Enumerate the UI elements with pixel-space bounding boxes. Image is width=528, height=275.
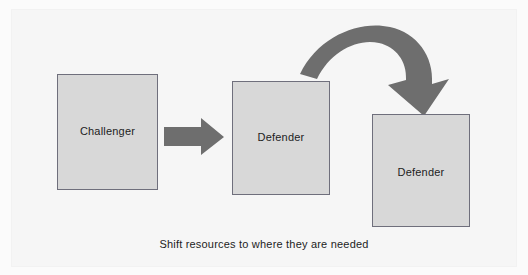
node-box-defender-middle[interactable]: Defender	[232, 81, 330, 195]
figure-caption: Shift resources to where they are needed	[0, 238, 528, 250]
node-label-defender-middle: Defender	[233, 131, 329, 143]
node-label-challenger: Challenger	[58, 125, 157, 137]
node-label-defender-right: Defender	[373, 166, 469, 178]
node-box-defender-right[interactable]: Defender	[372, 114, 470, 227]
diagram-figure: Challenger Defender Defender Shift resou…	[0, 0, 528, 275]
node-box-challenger[interactable]: Challenger	[57, 74, 158, 190]
